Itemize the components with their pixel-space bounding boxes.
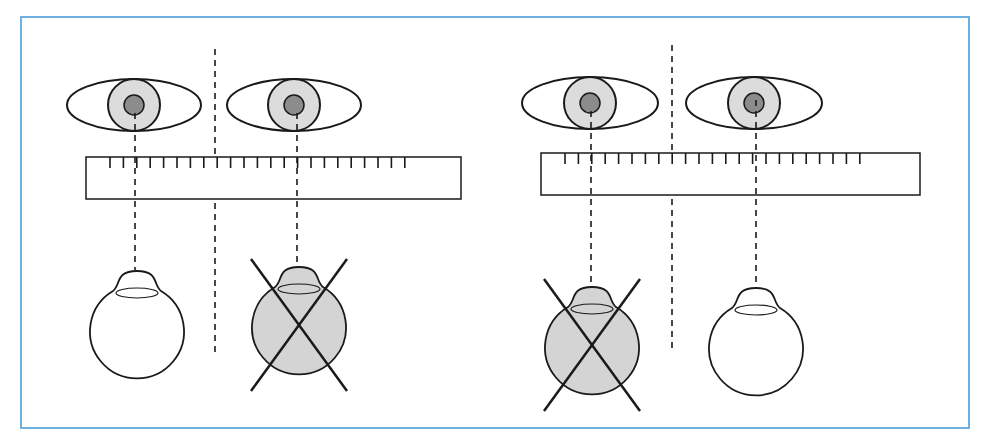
eyeball-fixing-eye (90, 271, 184, 378)
pupil-icon (580, 93, 600, 113)
left-panel (67, 49, 461, 391)
eyeball-outline-icon (252, 267, 346, 374)
eyeball-outline-icon (709, 288, 803, 395)
eyeball-fixing-eye (709, 288, 803, 395)
eyeball-outline-icon (90, 271, 184, 378)
right-panel (522, 45, 920, 411)
eye-front-left-eye (686, 77, 822, 129)
eye-front-right-eye (67, 79, 201, 131)
eye-front-right-eye (522, 77, 658, 129)
eyeball-outline-icon (545, 287, 639, 394)
cover-test-diagram (0, 0, 986, 447)
ruler (541, 153, 920, 195)
pupil-icon (284, 95, 304, 115)
eyeball-deviating-eye (251, 259, 347, 391)
pupil-icon (124, 95, 144, 115)
pupil-icon (744, 93, 764, 113)
eyeball-deviating-eye (544, 279, 640, 411)
eye-front-left-eye (227, 79, 361, 131)
